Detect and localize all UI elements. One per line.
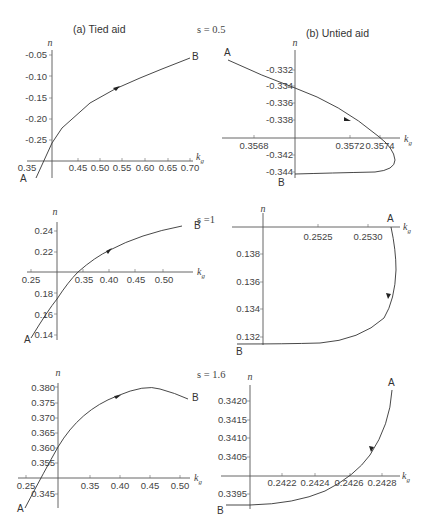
chart-untied-s16: 0.3420 0.3415 0.3410 0.3405 0.3395 0.242… bbox=[217, 371, 410, 516]
svg-text:0.3410: 0.3410 bbox=[218, 432, 247, 443]
svg-text:0.3420: 0.3420 bbox=[218, 395, 247, 406]
svg-text:kg: kg bbox=[197, 266, 205, 280]
trajectory-curve bbox=[36, 58, 190, 178]
svg-text:-0.05: -0.05 bbox=[25, 49, 47, 60]
svg-text:0.45: 0.45 bbox=[69, 162, 88, 173]
svg-text:0.14: 0.14 bbox=[35, 329, 54, 340]
svg-text:-0.336: -0.336 bbox=[266, 97, 293, 108]
svg-text:n: n bbox=[261, 203, 266, 214]
svg-text:B: B bbox=[217, 505, 224, 516]
svg-text:0.380: 0.380 bbox=[31, 382, 55, 393]
svg-text:A: A bbox=[17, 503, 24, 514]
svg-text:0.35: 0.35 bbox=[81, 480, 100, 491]
svg-text:n: n bbox=[56, 367, 61, 378]
svg-text:0.45: 0.45 bbox=[127, 274, 146, 285]
svg-text:-0.15: -0.15 bbox=[25, 92, 47, 103]
svg-text:0.3574: 0.3574 bbox=[365, 140, 394, 151]
svg-text:A: A bbox=[387, 213, 394, 224]
svg-text:0.25: 0.25 bbox=[22, 274, 41, 285]
svg-text:0.2424: 0.2424 bbox=[300, 477, 329, 488]
chart-tied-s16: 0.380 0.375 0.370 0.365 0.360 0.355 0.34… bbox=[17, 367, 203, 514]
svg-text:0.136: 0.136 bbox=[236, 276, 260, 287]
svg-text:-0.10: -0.10 bbox=[25, 71, 47, 82]
svg-text:kg: kg bbox=[404, 133, 412, 147]
svg-text:0.3572: 0.3572 bbox=[335, 140, 364, 151]
svg-text:A: A bbox=[388, 377, 395, 388]
arrow-icon bbox=[106, 248, 112, 254]
svg-text:0.25: 0.25 bbox=[17, 480, 36, 491]
svg-text:kg: kg bbox=[402, 470, 410, 484]
svg-text:A: A bbox=[20, 173, 27, 184]
chart-tied-s05: -0.05 -0.10 -0.15 -0.20 -0.25 0.35 0.45 … bbox=[18, 37, 205, 184]
svg-text:-0.25: -0.25 bbox=[25, 134, 47, 145]
svg-text:-0.20: -0.20 bbox=[25, 113, 47, 124]
svg-text:0.3568: 0.3568 bbox=[239, 140, 268, 151]
svg-text:0.50: 0.50 bbox=[91, 162, 110, 173]
arrow-icon bbox=[369, 446, 374, 452]
svg-text:kg: kg bbox=[403, 221, 411, 235]
svg-text:0.132: 0.132 bbox=[236, 331, 260, 342]
svg-text:0.365: 0.365 bbox=[31, 427, 55, 438]
svg-text:0.50: 0.50 bbox=[155, 274, 174, 285]
svg-text:0.24: 0.24 bbox=[35, 225, 54, 236]
arrow-icon bbox=[114, 395, 121, 399]
svg-text:B: B bbox=[192, 51, 199, 62]
figure: (a) Tied aid (b) Untied aid s = 0.5 s =1… bbox=[0, 0, 429, 530]
svg-text:0.3415: 0.3415 bbox=[218, 414, 247, 425]
svg-text:0.2428: 0.2428 bbox=[367, 477, 396, 488]
svg-text:0.3405: 0.3405 bbox=[218, 451, 247, 462]
svg-text:kg: kg bbox=[194, 472, 202, 486]
svg-text:0.35: 0.35 bbox=[75, 274, 94, 285]
svg-text:0.360: 0.360 bbox=[31, 442, 55, 453]
svg-text:0.22: 0.22 bbox=[35, 246, 54, 257]
svg-text:B: B bbox=[278, 177, 285, 188]
svg-text:-0.332: -0.332 bbox=[266, 64, 293, 75]
chart-untied-s05: -0.332 -0.334 -0.336 -0.338 -0.342 -0.34… bbox=[222, 37, 412, 188]
chart-tied-s1: 0.24 0.22 0.18 0.16 0.14 0.25 0.35 0.40 … bbox=[22, 206, 206, 345]
chart-untied-s1: 0.138 0.136 0.134 0.132 0.2525 0.2530 n … bbox=[232, 203, 411, 357]
svg-text:0.2525: 0.2525 bbox=[303, 231, 332, 242]
svg-text:n: n bbox=[293, 37, 298, 48]
svg-text:-0.344: -0.344 bbox=[266, 166, 293, 177]
svg-text:B: B bbox=[192, 392, 199, 403]
svg-text:0.60: 0.60 bbox=[136, 162, 155, 173]
svg-text:0.2426: 0.2426 bbox=[334, 477, 363, 488]
svg-text:0.45: 0.45 bbox=[141, 480, 160, 491]
svg-text:0.55: 0.55 bbox=[113, 162, 132, 173]
svg-text:0.138: 0.138 bbox=[236, 248, 260, 259]
arrow-icon bbox=[386, 293, 391, 299]
panel-title-untied: (b) Untied aid bbox=[306, 27, 369, 39]
svg-text:0.70: 0.70 bbox=[181, 162, 200, 173]
arrow-icon bbox=[344, 117, 351, 121]
s-label-0-5: s = 0.5 bbox=[197, 24, 225, 35]
svg-text:0.50: 0.50 bbox=[171, 480, 190, 491]
svg-text:0.134: 0.134 bbox=[236, 303, 260, 314]
svg-text:0.370: 0.370 bbox=[31, 412, 55, 423]
svg-text:0.40: 0.40 bbox=[100, 274, 119, 285]
svg-text:0.2530: 0.2530 bbox=[353, 231, 382, 242]
svg-text:0.40: 0.40 bbox=[111, 480, 130, 491]
svg-text:0.3395: 0.3395 bbox=[218, 488, 247, 499]
svg-text:A: A bbox=[224, 47, 231, 58]
panel-title-tied: (a) Tied aid bbox=[73, 23, 126, 35]
svg-text:0.35: 0.35 bbox=[18, 162, 37, 173]
svg-text:A: A bbox=[24, 334, 31, 345]
svg-text:-0.338: -0.338 bbox=[266, 114, 293, 125]
svg-text:0.65: 0.65 bbox=[159, 162, 178, 173]
svg-text:n: n bbox=[53, 206, 58, 217]
s-label-1-6: s = 1.6 bbox=[197, 369, 225, 380]
svg-text:0.2422: 0.2422 bbox=[267, 477, 296, 488]
svg-text:n: n bbox=[48, 37, 53, 48]
svg-text:B: B bbox=[236, 346, 243, 357]
svg-text:0.18: 0.18 bbox=[35, 288, 54, 299]
svg-text:B: B bbox=[194, 220, 201, 231]
arrow-icon bbox=[113, 86, 120, 91]
svg-text:0.375: 0.375 bbox=[31, 397, 55, 408]
svg-text:n: n bbox=[248, 371, 253, 382]
svg-text:-0.342: -0.342 bbox=[266, 149, 293, 160]
